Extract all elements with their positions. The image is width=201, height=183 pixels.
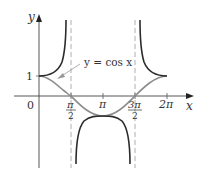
x-axis-label: x	[186, 99, 193, 113]
origin-label: 0	[27, 99, 34, 112]
svg-text:2: 2	[132, 111, 138, 121]
y-tick-label-1: 1	[26, 70, 33, 83]
svg-text:3π: 3π	[128, 99, 141, 110]
cos-sec-graph: y x 0 1 y = cos x π 2 π 3π 2 2π	[0, 0, 201, 183]
y-axis-arrow-icon	[36, 14, 42, 22]
sec-curve-middle	[76, 116, 130, 164]
x-tick-label-3pi-over-2: 3π 2	[128, 99, 142, 121]
annotation-label: y = cos x	[83, 56, 132, 68]
svg-text:π: π	[66, 99, 74, 110]
x-tick-label-pi: π	[98, 98, 107, 111]
sec-curve-left	[39, 20, 66, 76]
sec-curve-right	[140, 20, 167, 76]
annotation-arrow-icon	[57, 73, 65, 79]
svg-text:2: 2	[68, 111, 74, 121]
x-tick-label-pi-over-2: π 2	[66, 99, 76, 121]
y-axis-label: y	[27, 10, 35, 24]
x-tick-label-2pi: 2π	[158, 98, 174, 111]
